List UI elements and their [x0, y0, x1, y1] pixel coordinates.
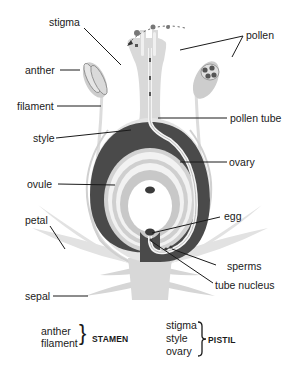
label-sepal: sepal — [25, 290, 50, 302]
legend-stamen-item: anther — [41, 326, 71, 337]
legend-pistil-item: style — [166, 333, 188, 344]
label-stigma: stigma — [49, 16, 80, 28]
label-ovary: ovary — [229, 156, 255, 168]
label-tube-nucleus: tube nucleus — [215, 279, 275, 291]
legend-stamen-heading: STAMEN — [92, 334, 128, 344]
legend-pistil-item: stigma — [166, 320, 197, 331]
legend-stamen-item: filament — [41, 338, 78, 349]
label-pollen-tube: pollen tube — [230, 112, 281, 124]
brace-icon — [197, 321, 207, 357]
polar-nucleus — [145, 187, 155, 194]
anther-left — [78, 59, 112, 102]
label-sperms: sperms — [227, 260, 261, 272]
label-ovule: ovule — [27, 178, 52, 190]
receptacle — [128, 258, 172, 300]
label-anther: anther — [25, 64, 55, 76]
label-egg: egg — [224, 210, 242, 222]
legend-pistil-item: ovary — [166, 346, 192, 357]
label-pollen: pollen — [246, 29, 274, 41]
egg-cell — [145, 229, 155, 236]
anther-right — [188, 57, 225, 103]
brace-icon: } — [79, 322, 86, 344]
legend-pistil-heading: PISTIL — [208, 335, 236, 345]
label-petal: petal — [25, 214, 48, 226]
label-filament: filament — [17, 100, 54, 112]
label-style: style — [33, 132, 55, 144]
